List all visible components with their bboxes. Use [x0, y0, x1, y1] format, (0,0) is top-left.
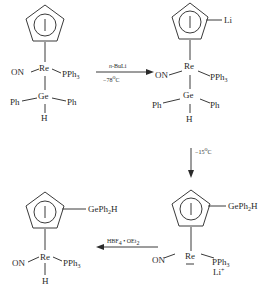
lithium-counterion-label: Li+ — [213, 268, 224, 277]
hydride-label: H — [41, 114, 48, 123]
phosphine-label: PPh3 — [210, 73, 228, 82]
cp-ring-3 — [172, 190, 226, 251]
cp-ring-2 — [172, 3, 222, 60]
rhenium-label: Re — [40, 253, 50, 262]
arrowhead-left — [96, 244, 104, 250]
phosphine-label: PPh3 — [212, 258, 230, 267]
germyl-substituent-label: GePh2H — [88, 205, 118, 214]
rhenium-label: Re — [39, 64, 49, 73]
arrow1-reagent: -BuLi — [112, 63, 126, 69]
lithium-label: Li — [224, 16, 232, 25]
phenyl-left-label: Ph — [10, 98, 20, 107]
arrowhead-right — [146, 69, 154, 75]
phosphine-label: PPh3 — [62, 70, 80, 79]
hydride-label: H — [42, 277, 49, 286]
phenyl-right-label: Ph — [210, 101, 220, 110]
arrow3-reagent: HBF4 • OEt2 — [107, 238, 139, 244]
hydride-label: H — [186, 115, 193, 124]
cp-ring-1 — [26, 5, 64, 62]
phosphine-label: PPh3 — [63, 259, 81, 268]
scheme-graphics — [0, 0, 278, 291]
arrow1-condition: −78oC — [103, 77, 119, 83]
nitrosyl-label: ON — [11, 68, 24, 77]
germanium-label: Ge — [183, 91, 194, 100]
phenyl-left-label: Ph — [152, 101, 162, 110]
cp-ring-4 — [26, 192, 86, 250]
arrowhead-down — [188, 170, 194, 178]
arrow2-condition: −15oC — [195, 149, 211, 155]
rhenium-label: Re — [185, 252, 195, 261]
germanium-label: Ge — [38, 92, 49, 101]
rhenium-label: Re — [184, 62, 194, 71]
germyl-substituent-label: GePh2H — [228, 202, 258, 211]
nitrosyl-label: ON — [152, 256, 165, 265]
phenyl-right-label: Ph — [67, 98, 77, 107]
nitrosyl-label: ON — [12, 259, 25, 268]
nitrosyl-label: ON — [155, 71, 168, 80]
